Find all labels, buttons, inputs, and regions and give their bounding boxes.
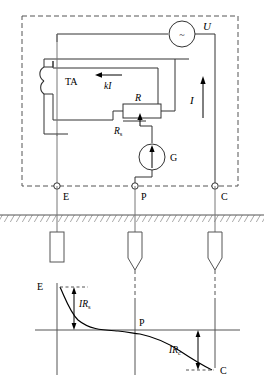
ki-current-label: kI — [104, 81, 112, 91]
wire-ta-core-top — [44, 61, 53, 67]
curve-label-p: P — [139, 317, 145, 328]
wire-ta-lower-tap — [44, 121, 68, 134]
electrode-p — [128, 232, 142, 270]
earth-resistance-measurement-figure: ~ U TA kI R Rs G — [0, 0, 264, 383]
terminal-p-label: P — [141, 191, 147, 202]
transformer-coil-arc-bottom-icon — [41, 81, 44, 94]
irs-label: IRs — [78, 299, 91, 310]
wire-r-left-lead — [113, 111, 123, 120]
ground-hatching — [0, 215, 264, 222]
transformer-label: TA — [65, 76, 78, 87]
irc-measure-arrow-icon — [196, 330, 201, 370]
galvanometer-needle-icon — [149, 145, 154, 168]
electrode-e — [50, 232, 64, 262]
wire-r-right-lead — [161, 59, 175, 111]
shunt-resistor-label: Rs — [113, 126, 123, 137]
resistor-r-label: R — [134, 92, 141, 103]
terminal-c-label: C — [221, 191, 228, 202]
line-current-arrow-icon — [200, 76, 205, 118]
irc-label: IRc — [168, 345, 181, 356]
electrode-c — [208, 232, 222, 270]
instrument-enclosure-dashed-box — [22, 16, 238, 186]
line-current-label: I — [189, 94, 195, 106]
ki-current-arrow-icon — [95, 72, 122, 77]
source-voltage-label: U — [203, 20, 212, 32]
curve-label-e: E — [37, 281, 43, 292]
terminal-e-label: E — [63, 191, 69, 202]
curve-label-c: C — [220, 365, 227, 376]
ac-source-tilde-icon: ~ — [179, 29, 185, 40]
resistor-r-body — [123, 104, 161, 118]
irs-measure-arrow-icon — [72, 287, 77, 330]
wire-source-right-to-c — [195, 34, 215, 186]
wire-secondary-bottom — [53, 94, 113, 120]
resistor-wiper-arrow-icon — [137, 113, 142, 126]
transformer-coil-arc-top-icon — [40, 67, 44, 81]
wire-wiper-to-galvanometer — [140, 126, 152, 143]
galvanometer-label: G — [170, 152, 177, 163]
wire-ta-top-rail — [44, 59, 189, 67]
wire-source-left — [57, 34, 168, 42]
